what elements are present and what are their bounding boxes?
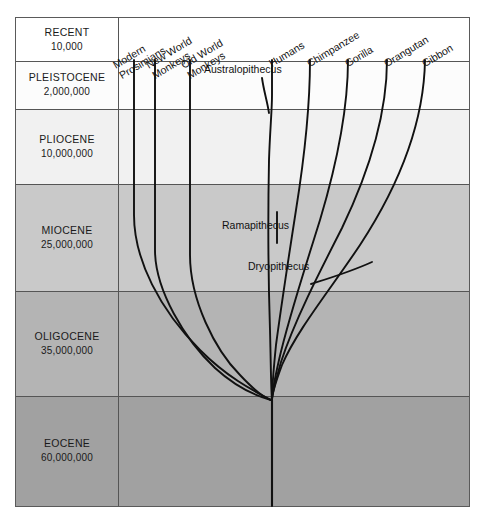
epoch-label-recent: RECENT 10,000 [16, 18, 118, 61]
epoch-label-eocene: EOCENE 60,000,000 [16, 396, 118, 506]
epoch-label-miocene: MIOCENE 25,000,000 [16, 184, 118, 291]
epoch-age: 10,000 [51, 40, 83, 55]
epoch-name: MIOCENE [41, 223, 92, 238]
epoch-label-oligocene: OLIGOCENE 35,000,000 [16, 291, 118, 396]
epoch-name: RECENT [45, 25, 90, 40]
epoch-label-pleistocene: PLEISTOCENE 2,000,000 [16, 61, 118, 109]
epoch-age: 25,000,000 [41, 238, 93, 253]
fossil-label-dryopithecus: Dryopithecus [248, 260, 309, 272]
epoch-name: EOCENE [44, 436, 90, 451]
fossil-label-australopithecus: Australopithecus [204, 63, 282, 75]
figure-canvas: RECENT 10,000 PLEISTOCENE 2,000,000 PLIO… [0, 0, 485, 525]
epoch-age: 10,000,000 [41, 147, 93, 162]
label-column-divider [118, 18, 119, 506]
epoch-name: PLEISTOCENE [29, 70, 106, 85]
epoch-label-pliocene: PLIOCENE 10,000,000 [16, 109, 118, 184]
epoch-name: OLIGOCENE [34, 329, 99, 344]
epoch-name: PLIOCENE [39, 132, 95, 147]
fossil-label-ramapithecus: Ramapithecus [222, 219, 289, 231]
chart-frame: RECENT 10,000 PLEISTOCENE 2,000,000 PLIO… [15, 17, 470, 507]
epoch-age: 60,000,000 [41, 451, 93, 466]
epoch-age: 35,000,000 [41, 344, 93, 359]
epoch-age: 2,000,000 [44, 85, 90, 100]
